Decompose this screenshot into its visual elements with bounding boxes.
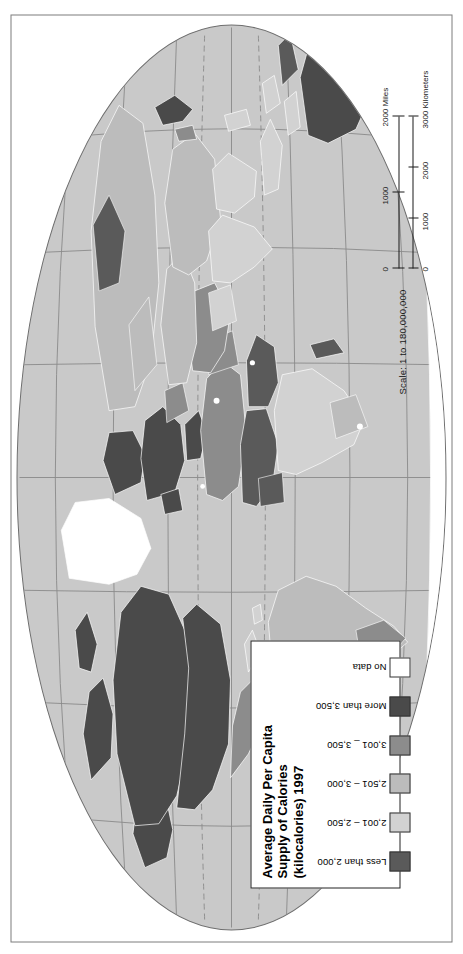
region-north-america [61, 498, 270, 867]
legend-label-more-than-3500: More than 3,500 [312, 700, 386, 711]
scale-miles-unit: 2000 Miles [380, 87, 389, 126]
legend-title-line-1: Average Daily Per Capita [259, 650, 274, 878]
map-figure: Scale: 1 to 180,000,000 0 1000 2000 Mile… [0, 0, 463, 954]
region-russia-north-asia [91, 105, 159, 410]
scale-km-tick-0 [408, 267, 418, 268]
legend-swatch-more-than-3500 [389, 696, 410, 716]
legend-item-2501-3000[interactable]: 2,501 – 3,000 [312, 767, 410, 801]
legend-label-2001-2500: 2,001 – 2,500 [312, 817, 386, 828]
scale-miles-tick-1000 [392, 191, 404, 192]
legend-swatch-2001-2500 [389, 812, 410, 832]
legend-title-line-3: (kilocalories) 1997 [290, 650, 305, 878]
legend-title: Average Daily Per Capita Supply of Calor… [259, 650, 305, 878]
scale-km-tick-3000 [408, 115, 418, 116]
legend-item-2001-2500[interactable]: 2,001 – 2,500 [312, 805, 410, 839]
scale-km-tick-2000 [408, 166, 418, 167]
legend-swatch-row: Less than 2,000 2,001 – 2,500 2,501 – 3,… [312, 650, 410, 878]
map-plate: Scale: 1 to 180,000,000 0 1000 2000 Mile… [0, 0, 463, 954]
scale-miles-tick-0 [392, 267, 404, 268]
scale-km-line [412, 116, 413, 268]
legend-item-more-than-3500[interactable]: More than 3,500 [312, 689, 410, 723]
legend-label-3001-3500: 3,001 _ 3,500 [312, 739, 386, 750]
legend-item-3001-3500[interactable]: 3,001 _ 3,500 [312, 728, 410, 762]
legend-label-2501-3000: 2,501 – 3,000 [312, 778, 386, 789]
scale-km-label-0: 0 [420, 267, 429, 271]
legend-title-line-2: Supply of Calories [274, 650, 289, 878]
scale-km-unit: 3000 Kilometers [420, 70, 429, 128]
scale-km-tick-1000 [408, 217, 418, 218]
legend-swatch-less-than-2000 [389, 851, 410, 871]
region-south-asia [208, 33, 300, 282]
scale-miles-label-0: 0 [380, 267, 389, 271]
scale-km-label-1000: 1000 [420, 212, 429, 230]
legend-item-no-data[interactable]: No data [312, 650, 410, 684]
scale-ratio-text: Scale: 1 to 180,000,000 [396, 289, 407, 394]
legend-item-less-than-2000[interactable]: Less than 2,000 [312, 844, 410, 878]
scale-bar: Scale: 1 to 180,000,000 0 1000 2000 Mile… [372, 64, 436, 394]
scale-bar-graphic: 0 1000 2000 Miles 0 1000 2000 3000 Kilom… [376, 68, 432, 268]
legend-label-less-than-2000: Less than 2,000 [312, 856, 386, 867]
map-legend: Average Daily Per Capita Supply of Calor… [250, 640, 400, 888]
scale-km-label-2000: 2000 [420, 161, 429, 179]
legend-swatch-no-data [389, 657, 410, 677]
scale-miles-tick-2000 [392, 115, 404, 116]
legend-swatch-2501-3000 [389, 773, 410, 793]
legend-swatch-3001-3500 [389, 735, 410, 755]
scale-miles-label-1000: 1000 [380, 186, 389, 204]
legend-label-no-data: No data [312, 661, 386, 672]
region-africa [200, 330, 367, 506]
